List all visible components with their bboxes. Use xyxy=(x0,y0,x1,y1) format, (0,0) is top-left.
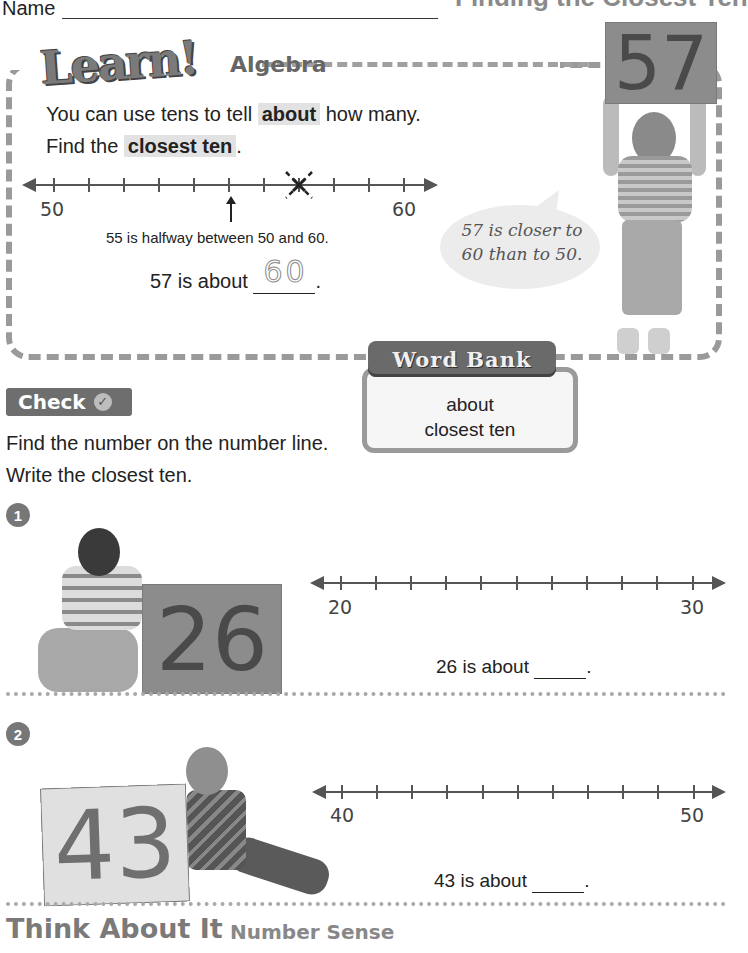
tick-label-start: 50 xyxy=(40,198,64,220)
girl-photo-shoe xyxy=(648,328,670,354)
answer-blank-learn: 60 xyxy=(253,270,315,294)
girl-photo-arm xyxy=(603,96,619,176)
halfway-caption: 55 is halfway between 50 and 60. xyxy=(106,229,329,246)
tick xyxy=(622,785,624,799)
learn-line-1: You can use tens to tell about how many. xyxy=(46,98,421,130)
tick xyxy=(411,785,413,799)
speech-bubble-text: 57 is closer to 60 than to 50. xyxy=(452,218,592,266)
tick xyxy=(403,178,405,192)
vocab-closest-ten: closest ten xyxy=(124,135,236,157)
boy-photo-head xyxy=(186,747,228,795)
tick xyxy=(340,576,342,590)
text: 57 is about xyxy=(150,270,248,292)
tick xyxy=(551,576,553,590)
marked-point-x-icon xyxy=(282,168,316,202)
section-divider xyxy=(6,902,726,906)
tick xyxy=(516,576,518,590)
number-sign-43: 43 xyxy=(40,783,190,906)
check-instructions: Find the number on the number line. Writ… xyxy=(6,427,328,491)
tick-label-end: 30 xyxy=(680,596,704,618)
girl-photo-pants xyxy=(622,220,682,315)
tick-label-end: 50 xyxy=(680,804,704,826)
girl-photo-shirt xyxy=(618,156,692,222)
text: . xyxy=(315,270,321,292)
tick xyxy=(410,576,412,590)
girl-photo-arm xyxy=(690,96,706,176)
tick xyxy=(376,785,378,799)
girl-photo-shoe xyxy=(617,328,639,354)
name-input-line[interactable] xyxy=(62,18,438,19)
tick xyxy=(552,785,554,799)
tick xyxy=(263,178,265,192)
tick xyxy=(587,785,589,799)
tick-label-start: 40 xyxy=(330,804,354,826)
tick xyxy=(480,576,482,590)
tick xyxy=(158,178,160,192)
tick xyxy=(517,785,519,799)
tick xyxy=(123,178,125,192)
number-sign-26: 26 xyxy=(142,584,282,694)
text: . xyxy=(584,870,589,891)
tick xyxy=(446,785,448,799)
check-label: Check xyxy=(18,390,86,414)
problem-1-prompt: 26 is about . xyxy=(436,656,592,679)
text: . xyxy=(236,135,242,157)
instruction-line: Find the number on the number line. xyxy=(6,427,328,459)
checkmark-icon: ✓ xyxy=(94,393,112,411)
arrow-up-icon xyxy=(226,196,236,204)
instruction-line: Write the closest ten. xyxy=(6,459,328,491)
word-bank-box: about closest ten xyxy=(362,367,578,453)
text: Find the xyxy=(46,135,118,157)
text: . xyxy=(586,656,591,677)
tick xyxy=(53,178,55,192)
problem-number-badge: 2 xyxy=(6,722,30,746)
name-label: Name xyxy=(2,0,55,20)
learn-logo: Learn! xyxy=(38,31,199,96)
arrow-right-icon xyxy=(424,178,438,192)
tick xyxy=(368,178,370,192)
text: You can use tens to tell xyxy=(46,103,252,125)
think-about-it-title: Think About It xyxy=(6,913,223,944)
think-about-it-subtitle: Number Sense xyxy=(230,920,394,944)
tick-label-end: 60 xyxy=(392,198,416,220)
problem-number-badge: 1 xyxy=(6,503,30,527)
learn-topic-tag: Algebra xyxy=(230,52,327,77)
tick xyxy=(445,576,447,590)
tick xyxy=(482,785,484,799)
arrow-right-icon xyxy=(712,576,726,590)
boy-photo-shirt xyxy=(186,790,246,870)
boy-photo-legs xyxy=(38,628,138,692)
tick xyxy=(375,576,377,590)
tick xyxy=(693,785,695,799)
tick xyxy=(586,576,588,590)
number-sign-57: 57 xyxy=(605,22,717,104)
arrow-right-icon xyxy=(712,785,726,799)
section-divider xyxy=(6,692,726,696)
tick xyxy=(621,576,623,590)
text: 26 is about xyxy=(436,656,529,677)
learn-intro: You can use tens to tell about how many.… xyxy=(46,98,421,162)
word-bank-item: about xyxy=(367,394,573,416)
page-title: Finding the Closest Ten xyxy=(455,0,748,13)
tick xyxy=(656,576,658,590)
tick xyxy=(333,178,335,192)
word-bank-title: Word Bank xyxy=(368,341,556,377)
learn-answer-sentence: 57 is about 60. xyxy=(150,270,321,294)
text: 43 is about xyxy=(434,870,527,891)
tick xyxy=(193,178,195,192)
learn-line-2: Find the closest ten. xyxy=(46,130,421,162)
traced-answer: 60 xyxy=(263,254,307,289)
tick xyxy=(692,576,694,590)
text: how many. xyxy=(326,103,421,125)
answer-blank-2[interactable] xyxy=(532,870,584,893)
tick xyxy=(657,785,659,799)
tick xyxy=(341,785,343,799)
tick-label-start: 20 xyxy=(328,596,352,618)
problem-2-prompt: 43 is about . xyxy=(434,870,590,893)
tick xyxy=(228,178,230,192)
word-bank-item: closest ten xyxy=(367,419,573,441)
answer-blank-1[interactable] xyxy=(534,656,586,679)
boy-photo-head xyxy=(78,528,120,576)
tick xyxy=(88,178,90,192)
vocab-about: about xyxy=(258,103,320,125)
